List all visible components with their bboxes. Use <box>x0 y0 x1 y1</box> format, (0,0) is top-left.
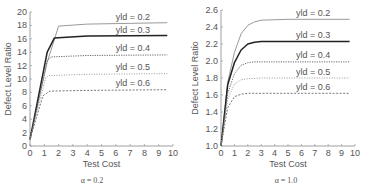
x-tick-label: 1 <box>42 148 47 158</box>
x-tick-label: 4 <box>85 148 90 158</box>
y-tick-label: 2.6 <box>205 5 218 15</box>
x-tick-label: 7 <box>128 148 133 158</box>
y-tick-label: 2.0 <box>205 56 218 66</box>
y-tick-label: 4 <box>22 114 27 124</box>
x-tick-label: 2 <box>245 148 250 158</box>
chart-2: 0123456789101.01.21.41.61.82.02.22.42.6T… <box>190 5 360 185</box>
x-tick-label: 9 <box>339 148 344 158</box>
y-tick-label: 1.6 <box>205 90 218 100</box>
y-tick-label: 1.8 <box>205 73 218 83</box>
chart-caption: α = 0.2 <box>81 176 104 185</box>
y-tick-label: 1.0 <box>205 141 218 151</box>
x-tick-label: 0 <box>218 148 223 158</box>
y-tick-label: 12 <box>17 61 27 71</box>
series-line <box>30 90 167 140</box>
y-tick-label: 0 <box>22 141 27 151</box>
series-label: yld = 0.5 <box>296 67 330 77</box>
x-tick-label: 7 <box>312 148 317 158</box>
x-tick-label: 4 <box>272 148 277 158</box>
y-axis-label: Defect Level Ratio <box>3 42 13 116</box>
y-tick-label: 14 <box>17 47 27 57</box>
y-tick-label: 18 <box>17 20 27 30</box>
series-label: yld = 0.5 <box>116 62 150 72</box>
x-tick-label: 10 <box>350 148 360 158</box>
x-tick-label: 5 <box>285 148 290 158</box>
x-tick-label: 10 <box>168 148 178 158</box>
series-label: yld = 0.2 <box>116 12 150 22</box>
y-tick-label: 20 <box>17 7 27 17</box>
y-tick-label: 6 <box>22 101 27 111</box>
x-tick-label: 0 <box>27 148 32 158</box>
y-tick-label: 2 <box>22 128 27 138</box>
y-tick-label: 8 <box>22 87 27 97</box>
y-axis-label: Defect Level Ratio <box>190 41 200 115</box>
chart-1: 01234567891002468101214161820Test CostDe… <box>3 7 178 185</box>
x-tick-label: 9 <box>156 148 161 158</box>
x-axis-label: Test Cost <box>269 159 307 169</box>
x-axis-label: Test Cost <box>83 159 121 169</box>
y-tick-label: 2.4 <box>205 22 218 32</box>
series-line <box>221 93 350 146</box>
series-label: yld = 0.2 <box>296 8 330 18</box>
series-label: yld = 0.6 <box>116 78 150 88</box>
x-tick-label: 6 <box>299 148 304 158</box>
series-label: yld = 0.3 <box>296 30 330 40</box>
x-tick-label: 2 <box>56 148 61 158</box>
x-tick-label: 3 <box>259 148 264 158</box>
y-tick-label: 2.2 <box>205 39 218 49</box>
chart-caption: α = 1.0 <box>275 176 298 185</box>
x-tick-label: 8 <box>142 148 147 158</box>
y-tick-label: 1.2 <box>205 124 218 134</box>
series-label: yld = 0.4 <box>116 43 150 53</box>
series-label: yld = 0.6 <box>296 82 330 92</box>
x-tick-label: 1 <box>232 148 237 158</box>
x-tick-label: 5 <box>99 148 104 158</box>
x-tick-label: 3 <box>70 148 75 158</box>
y-tick-label: 16 <box>17 34 27 44</box>
x-tick-label: 8 <box>326 148 331 158</box>
y-tick-label: 10 <box>17 74 27 84</box>
y-tick-label: 1.4 <box>205 107 218 117</box>
x-tick-label: 6 <box>113 148 118 158</box>
figure: 01234567891002468101214161820Test CostDe… <box>0 0 366 191</box>
series-label: yld = 0.4 <box>296 50 330 60</box>
series-label: yld = 0.3 <box>116 25 150 35</box>
